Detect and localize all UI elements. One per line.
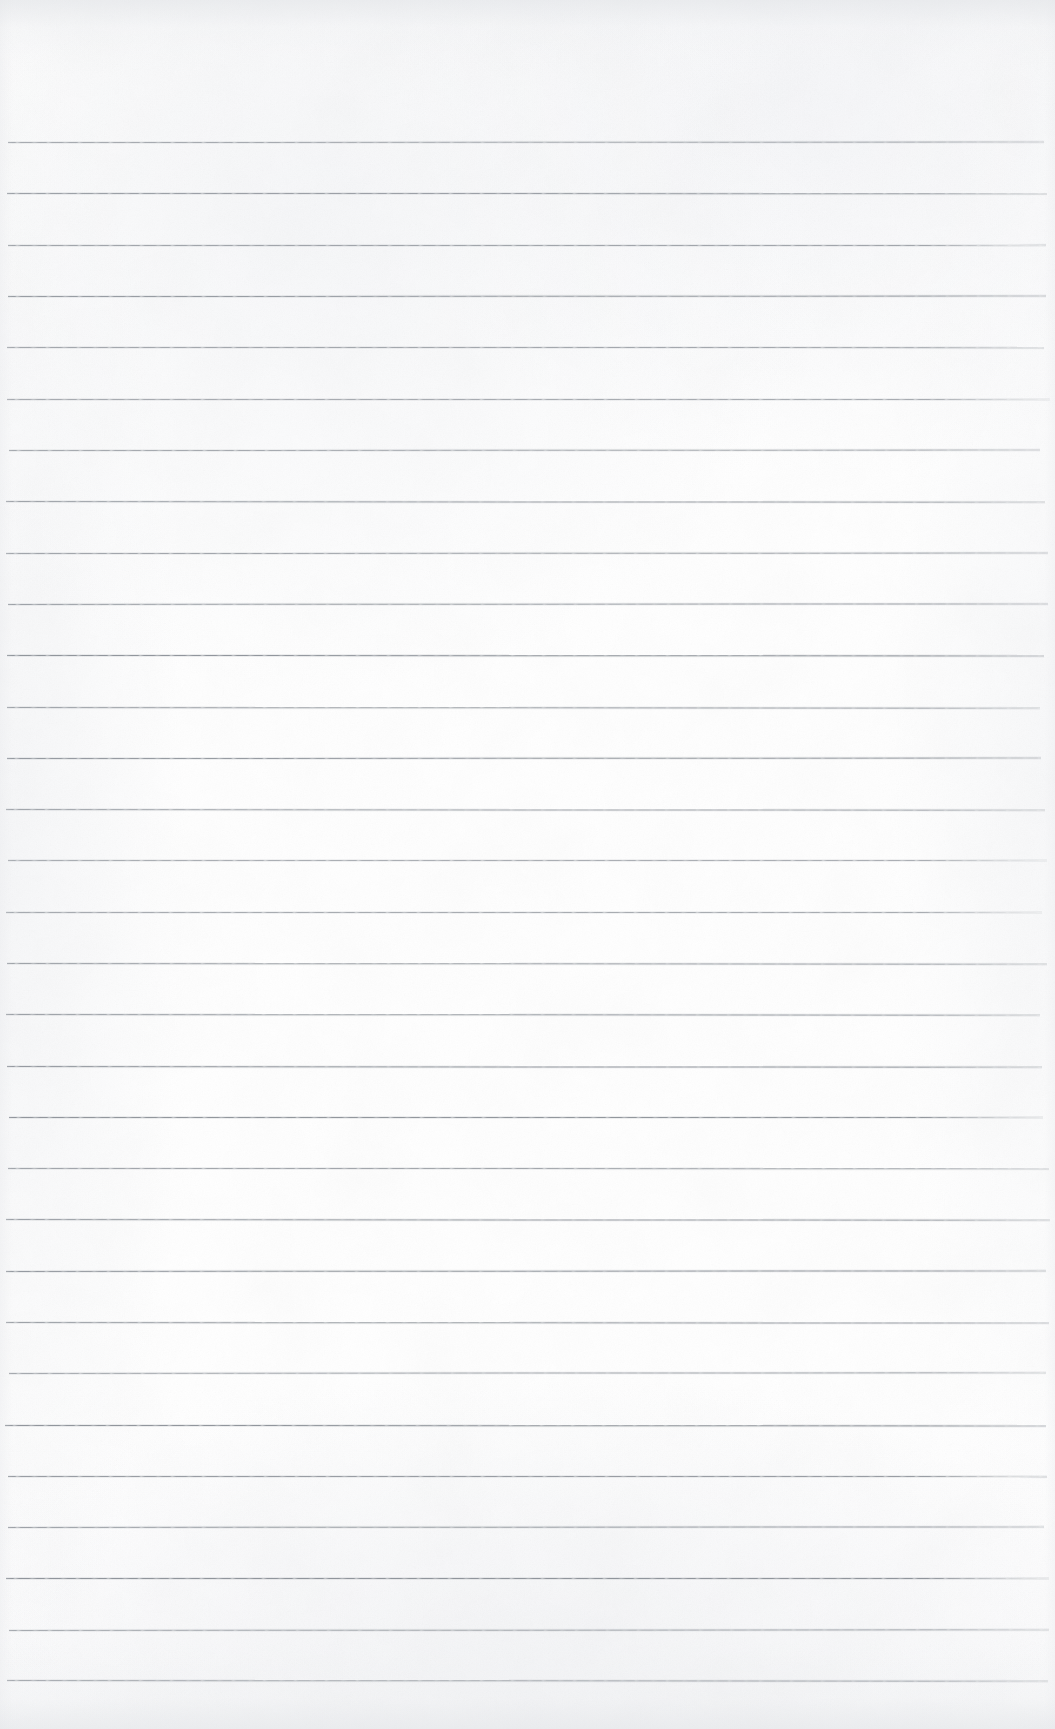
writing-area <box>0 0 1055 1729</box>
notebook-page <box>0 0 1055 1729</box>
